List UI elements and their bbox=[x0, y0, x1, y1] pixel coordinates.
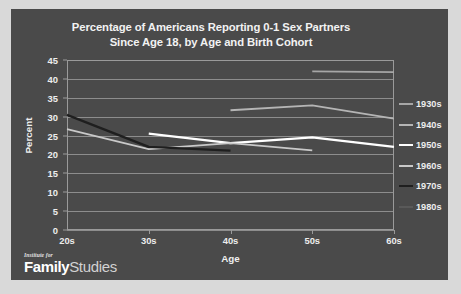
chart-title: Percentage of Americans Reporting 0-1 Se… bbox=[41, 20, 381, 49]
legend-swatch-icon bbox=[399, 124, 413, 126]
logo-wordmark: FamilyStudies bbox=[24, 259, 154, 275]
y-tick-label: 5 bbox=[53, 206, 58, 217]
x-tick-mark bbox=[394, 230, 395, 234]
legend-item-1950s[interactable]: 1950s bbox=[399, 135, 448, 156]
legend-label: 1980s bbox=[416, 202, 442, 212]
y-tick-label: 45 bbox=[48, 55, 58, 66]
series-lines bbox=[67, 60, 394, 230]
series-line-1950s bbox=[149, 134, 394, 147]
chart-legend: 1930s1940s1950s1960s1970s1980s bbox=[399, 94, 448, 217]
institute-for-family-studies-logo: Institute for FamilyStudies bbox=[24, 252, 154, 275]
series-line-1930s bbox=[312, 71, 394, 72]
legend-label: 1970s bbox=[416, 181, 442, 191]
chart-title-line-1: Percentage of Americans Reporting 0-1 Se… bbox=[72, 21, 350, 33]
x-tick-mark bbox=[149, 230, 150, 234]
series-line-1940s bbox=[231, 105, 395, 118]
legend-swatch-icon bbox=[399, 144, 413, 146]
legend-item-1930s[interactable]: 1930s bbox=[399, 94, 448, 115]
legend-label: 1950s bbox=[416, 140, 442, 150]
x-tick-label: 30s bbox=[141, 235, 157, 246]
legend-item-1960s[interactable]: 1960s bbox=[399, 156, 448, 177]
y-tick-label: 20 bbox=[48, 149, 58, 160]
y-tick-label: 35 bbox=[48, 92, 58, 103]
logo-word-family: Family bbox=[24, 258, 69, 275]
y-tick-label: 30 bbox=[48, 111, 58, 122]
x-tick-label: 60s bbox=[386, 235, 402, 246]
x-tick-label: 50s bbox=[304, 235, 320, 246]
chart-panel: Percentage of Americans Reporting 0-1 Se… bbox=[11, 9, 448, 280]
y-tick-label: 40 bbox=[48, 73, 58, 84]
legend-swatch-icon bbox=[399, 103, 413, 105]
legend-item-1970s[interactable]: 1970s bbox=[399, 176, 448, 197]
legend-item-1940s[interactable]: 1940s bbox=[399, 115, 448, 136]
chart-title-line-2: Since Age 18, by Age and Birth Cohort bbox=[41, 35, 381, 50]
legend-swatch-icon bbox=[399, 165, 413, 167]
plot-area bbox=[67, 60, 394, 230]
x-tick-mark bbox=[231, 230, 232, 234]
logo-word-studies: Studies bbox=[69, 258, 117, 275]
x-tick-mark bbox=[312, 230, 313, 234]
y-tick-label: 25 bbox=[48, 130, 58, 141]
y-tick-label: 0 bbox=[53, 225, 58, 236]
x-tick-label: 20s bbox=[59, 235, 75, 246]
y-tick-label: 10 bbox=[48, 187, 58, 198]
legend-label: 1930s bbox=[416, 99, 442, 109]
legend-item-1980s[interactable]: 1980s bbox=[399, 197, 448, 218]
y-axis-ticks: 051015202530354045 bbox=[11, 60, 63, 230]
x-tick-label: 40s bbox=[223, 235, 239, 246]
legend-label: 1940s bbox=[416, 120, 442, 130]
legend-swatch-icon bbox=[399, 185, 413, 187]
legend-swatch-icon bbox=[399, 206, 413, 208]
figure-canvas: Percentage of Americans Reporting 0-1 Se… bbox=[0, 0, 461, 294]
y-tick-label: 15 bbox=[48, 168, 58, 179]
legend-label: 1960s bbox=[416, 161, 442, 171]
